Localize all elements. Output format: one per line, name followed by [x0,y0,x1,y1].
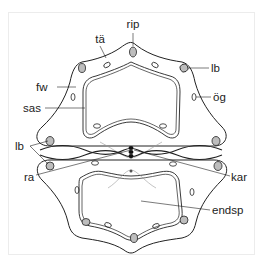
label-lb-top: lb [211,62,220,74]
upper-outer-wall [37,42,226,146]
label-og: ög [213,91,226,103]
oil-duct-upper-2 [151,61,159,68]
oil-duct-upper-right [192,94,196,101]
leader-endsp [141,201,210,210]
vascular-bundle-mid-right-upper [212,137,220,146]
label-ta: tä [95,33,105,45]
label-fw: fw [36,81,48,93]
vascular-bundle-upper-left [79,64,86,73]
oil-duct-upper-4 [160,124,167,128]
leader-ta [100,46,106,58]
cross-section-diagram: rip tä lb fw ög sas lb ra kar endsp [0,0,263,265]
label-endsp: endsp [212,204,243,216]
oil-duct-lower-2 [170,162,177,166]
vascular-bundle-lower-bottom [131,234,138,243]
oil-duct-lower-left [75,187,79,194]
label-kar: kar [231,171,247,183]
upper-inner-wall [83,62,180,138]
oil-duct-upper-3 [94,124,101,128]
vascular-bundle-upper-right [179,63,190,74]
label-sas: sas [23,102,41,114]
keel-bead-1 [129,146,134,150]
vascular-bundle-rip [130,47,137,57]
lower-center-dot [130,170,133,173]
label-lb-left: lb [15,140,24,152]
oil-duct-upper-1 [103,61,111,68]
oil-duct-lower-right [190,189,194,196]
vascular-bundle-mid-right-lower [214,162,222,171]
label-rip: rip [127,18,140,30]
oil-duct-lower-1 [92,161,99,165]
vascular-bundle-lower-left [82,219,90,226]
oil-duct-lower-3 [104,222,112,229]
vascular-bundle-lower-right [180,216,188,224]
keel-bead-3 [129,154,134,158]
oil-duct-upper-left [71,94,75,101]
lower-inner-wall [79,171,182,240]
label-ra: ra [24,171,35,183]
